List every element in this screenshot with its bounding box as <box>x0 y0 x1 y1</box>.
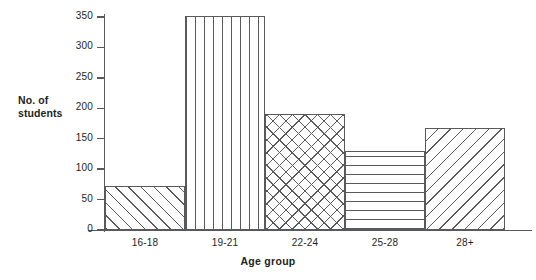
bar-22-24 <box>265 114 345 230</box>
y-axis-tick-mark <box>97 199 105 200</box>
x-axis-line <box>88 230 532 231</box>
bar-25-28 <box>345 151 425 230</box>
y-axis-tick-mark <box>97 138 105 139</box>
y-axis-tick-label: 50 <box>62 193 93 204</box>
y-axis-tick-label: 300 <box>62 40 93 51</box>
y-axis-tick-label: 350 <box>62 10 93 21</box>
bar-19-21 <box>185 16 265 230</box>
x-axis-tick-label: 16-18 <box>105 237 185 248</box>
y-axis-tick-mark <box>97 168 105 169</box>
x-axis-tick-label: 22-24 <box>265 237 345 248</box>
y-axis-tick-mark <box>97 108 105 109</box>
x-axis-tick-label: 19-21 <box>185 237 265 248</box>
y-axis-tick-label: 150 <box>62 132 93 143</box>
bar-28+ <box>425 128 505 230</box>
x-axis-tick-label: 25-28 <box>345 237 425 248</box>
bar-chart: No. of students 050100150200250300350 16… <box>0 0 536 280</box>
y-axis-tick-label: 250 <box>62 71 93 82</box>
y-axis-tick-mark <box>97 16 105 17</box>
y-axis-tick-label: 0 <box>62 223 93 234</box>
y-axis-tick-mark <box>97 47 105 48</box>
x-axis-tick-label: 28+ <box>425 237 505 248</box>
y-axis-tick-mark <box>97 77 105 78</box>
y-axis-tick-label: 100 <box>62 162 93 173</box>
bar-16-18 <box>105 186 185 230</box>
y-axis-tick-mark <box>97 229 105 230</box>
y-axis-tick-label: 200 <box>62 101 93 112</box>
bars-group <box>105 0 505 230</box>
x-axis-title: Age group <box>0 255 536 267</box>
